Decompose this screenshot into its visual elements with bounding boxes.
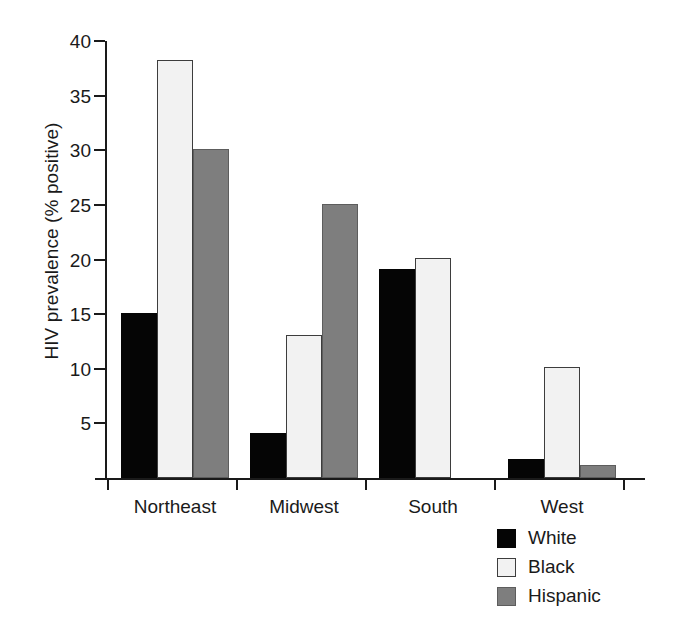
y-tick-35 [94, 95, 105, 97]
bar-northeast-white [121, 313, 157, 478]
legend-swatch-white [497, 529, 516, 548]
bar-midwest-black [286, 335, 322, 478]
x-tick-label-west: West [541, 496, 584, 518]
bar-west-white [508, 459, 544, 478]
legend-swatch-hispanic [497, 587, 516, 606]
legend-item-black: Black [497, 554, 601, 580]
bar-south-black [415, 258, 451, 478]
y-tick-label-10: 10 [31, 359, 91, 378]
plot-area: 510152025303540 NortheastMidwestSouthWes… [105, 41, 645, 478]
y-tick-label-15: 15 [31, 305, 91, 324]
y-tick-label-40: 40 [31, 32, 91, 51]
y-tick-label-20: 20 [31, 250, 91, 269]
legend-item-hispanic: Hispanic [497, 583, 601, 609]
bar-northeast-black [157, 60, 193, 478]
legend-swatch-black [497, 558, 516, 577]
legend-label-white: White [528, 527, 577, 549]
chart-legend: WhiteBlackHispanic [497, 525, 601, 612]
y-tick-label-25: 25 [31, 195, 91, 214]
y-tick-15 [94, 313, 105, 315]
bar-south-white [379, 269, 415, 478]
x-axis-line [95, 478, 645, 480]
legend-item-white: White [497, 525, 601, 551]
x-tick-south [365, 478, 367, 490]
y-axis-line [105, 41, 107, 478]
y-tick-label-5: 5 [31, 414, 91, 433]
x-tick-northeast [107, 478, 109, 490]
y-tick-label-35: 35 [31, 86, 91, 105]
bar-west-hispanic [580, 465, 616, 478]
y-tick-20 [94, 259, 105, 261]
bar-midwest-hispanic [322, 204, 358, 478]
x-tick-label-northeast: Northeast [134, 496, 216, 518]
x-tick-midwest [236, 478, 238, 490]
bar-northeast-hispanic [193, 149, 229, 478]
bar-midwest-white [250, 433, 286, 478]
x-tick-end [623, 478, 625, 490]
x-tick-west [494, 478, 496, 490]
y-tick-30 [94, 149, 105, 151]
x-tick-label-midwest: Midwest [269, 496, 339, 518]
y-tick-5 [94, 422, 105, 424]
x-tick-label-south: South [408, 496, 458, 518]
y-tick-label-30: 30 [31, 141, 91, 160]
bar-west-black [544, 367, 580, 478]
legend-label-hispanic: Hispanic [528, 585, 601, 607]
y-tick-25 [94, 204, 105, 206]
bar-chart-figure: HIV prevalence (% positive) 510152025303… [0, 0, 695, 626]
legend-label-black: Black [528, 556, 574, 578]
y-tick-40 [94, 40, 105, 42]
y-tick-10 [94, 368, 105, 370]
